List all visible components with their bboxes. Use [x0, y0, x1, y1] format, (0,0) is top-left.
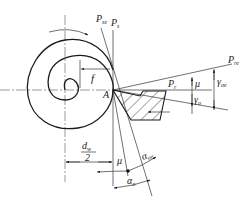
cutting-tool-working-angle-diagram: f Ps Pse Pr Pre A μ γo γoe dw — [0, 0, 248, 212]
pr-label: Pr — [167, 78, 177, 90]
rotation-arrow — [49, 30, 88, 35]
mu-bottom-arc — [97, 171, 128, 172]
ps-label: Ps — [110, 17, 120, 29]
gamma-oe-label: γoe — [217, 76, 227, 88]
feed-label: f — [91, 72, 96, 84]
mu-top-label: μ — [194, 78, 200, 89]
dw-numerator: dw — [82, 140, 91, 152]
alpha-oe-label: αoe — [140, 147, 155, 162]
pse-label: Pse — [95, 13, 107, 25]
pre-label: Pre — [227, 54, 239, 66]
dw-denominator: 2 — [85, 152, 90, 163]
point-a-label: A — [102, 89, 110, 100]
alpha-o-label: αo — [127, 175, 135, 187]
gamma-o-label: γo — [194, 94, 201, 106]
mu-bottom-label: μ — [116, 155, 122, 166]
workpiece-spiral — [27, 39, 113, 128]
